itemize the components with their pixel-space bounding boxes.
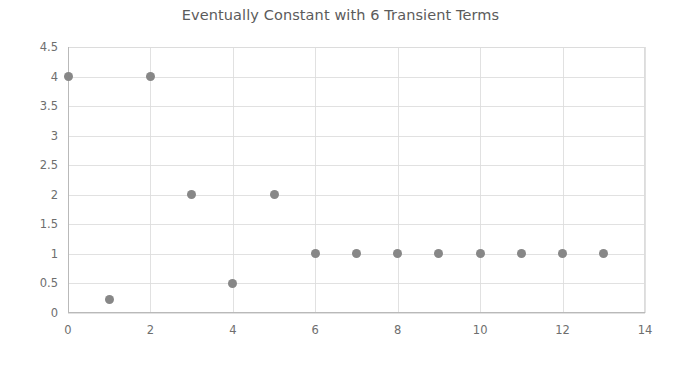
gridline-horizontal — [68, 224, 645, 225]
x-tick-label: 6 — [312, 323, 319, 337]
data-point — [187, 190, 196, 199]
data-point — [476, 249, 485, 258]
data-point — [64, 72, 73, 81]
y-tick-label: 4 — [0, 70, 58, 84]
gridline-vertical — [645, 47, 646, 313]
y-tick-label: 2 — [0, 188, 58, 202]
data-point — [599, 249, 608, 258]
data-point — [434, 249, 443, 258]
data-point — [311, 249, 320, 258]
data-point — [558, 249, 567, 258]
x-tick-label: 12 — [555, 323, 570, 337]
gridline-horizontal — [68, 106, 645, 107]
gridline-horizontal — [68, 165, 645, 166]
gridline-vertical — [233, 47, 234, 313]
plot-border-top — [68, 47, 645, 48]
y-tick-label: 2.5 — [0, 158, 58, 172]
chart-title: Eventually Constant with 6 Transient Ter… — [0, 7, 681, 23]
gridline-horizontal — [68, 313, 645, 314]
x-tick-label: 2 — [147, 323, 154, 337]
x-tick-label: 10 — [473, 323, 488, 337]
gridline-vertical — [315, 47, 316, 313]
y-tick-label: 4.5 — [0, 40, 58, 54]
gridline-vertical — [398, 47, 399, 313]
data-point — [517, 249, 526, 258]
plot-border-right — [644, 47, 645, 313]
gridline-horizontal — [68, 195, 645, 196]
gridline-vertical — [150, 47, 151, 313]
y-tick-label: 0.5 — [0, 276, 58, 290]
y-axis-line — [68, 47, 69, 313]
x-tick-label: 8 — [394, 323, 401, 337]
gridline-vertical — [480, 47, 481, 313]
x-tick-label: 0 — [64, 323, 71, 337]
scatter-chart: Eventually Constant with 6 Transient Ter… — [0, 0, 681, 365]
y-tick-label: 3.5 — [0, 99, 58, 113]
data-point — [352, 249, 361, 258]
y-tick-label: 0 — [0, 306, 58, 320]
gridline-horizontal — [68, 283, 645, 284]
y-tick-label: 3 — [0, 129, 58, 143]
data-point — [105, 295, 114, 304]
data-point — [228, 279, 237, 288]
data-point — [270, 190, 279, 199]
data-point — [146, 72, 155, 81]
y-tick-label: 1 — [0, 247, 58, 261]
data-point — [393, 249, 402, 258]
gridline-vertical — [563, 47, 564, 313]
x-tick-label: 14 — [638, 323, 653, 337]
y-tick-label: 1.5 — [0, 217, 58, 231]
plot-area — [68, 47, 645, 313]
x-tick-label: 4 — [229, 323, 236, 337]
gridline-horizontal — [68, 136, 645, 137]
x-axis-line — [68, 312, 645, 313]
